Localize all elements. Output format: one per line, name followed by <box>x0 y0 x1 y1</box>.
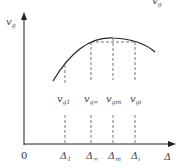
diagram: vg vg Δ 0 vg1 vg∞ vgm vgi Δ1 Δ∞ Δm Δi <box>0 0 183 168</box>
marker-delta-label-3: Δm <box>107 150 121 162</box>
vertical-dashed-lines <box>65 38 135 144</box>
marker-v-label-4: vgi <box>130 93 141 106</box>
curve <box>53 38 155 81</box>
marker-v-label-3: vgm <box>106 93 121 106</box>
marker-delta-label-4: Δi <box>130 150 140 162</box>
cropped-top-label: vg <box>152 0 162 8</box>
y-axis-arrow-icon <box>21 12 27 20</box>
marker-delta-label-2: Δ∞ <box>85 150 98 162</box>
x-axis-arrow-icon <box>168 141 176 147</box>
marker-v-label-2: vg∞ <box>84 93 99 106</box>
x-axis-label: Δ <box>163 151 171 162</box>
marker-delta-label-1: Δ1 <box>59 150 71 162</box>
y-axis-label: vg <box>6 16 16 29</box>
origin-label: 0 <box>21 150 27 161</box>
marker-v-label-1: vg1 <box>57 93 70 106</box>
